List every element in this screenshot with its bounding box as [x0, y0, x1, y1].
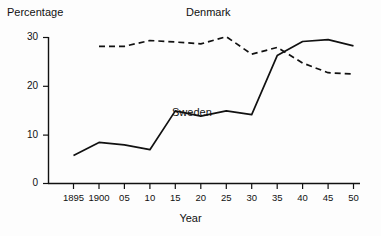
- y-tick-label-20: 20: [12, 80, 38, 91]
- series-label-sweden: Sweden: [172, 106, 212, 118]
- y-axis-title: Percentage: [7, 6, 63, 18]
- x-tick-marks: [74, 184, 354, 190]
- y-tick-marks: [43, 38, 49, 184]
- x-tick-label-30: 30: [240, 192, 264, 203]
- y-tick-label-0: 0: [12, 177, 38, 188]
- line-chart: Percentage 30 20 10 0 1895 1900 05 10 15…: [0, 0, 381, 236]
- x-tick-label-05: 05: [112, 192, 136, 203]
- x-tick-label-40: 40: [291, 192, 315, 203]
- x-tick-label-1900: 1900: [85, 192, 113, 203]
- x-tick-label-45: 45: [316, 192, 340, 203]
- x-tick-label-25: 25: [214, 192, 238, 203]
- x-tick-label-15: 15: [163, 192, 187, 203]
- x-tick-label-20: 20: [189, 192, 213, 203]
- series-line-sweden: [74, 40, 354, 156]
- x-axis-title: Year: [0, 212, 381, 224]
- x-tick-label-35: 35: [265, 192, 289, 203]
- series-label-denmark: Denmark: [186, 6, 231, 18]
- y-tick-label-30: 30: [12, 31, 38, 42]
- x-tick-label-10: 10: [138, 192, 162, 203]
- y-tick-label-10: 10: [12, 129, 38, 140]
- x-tick-label-1895: 1895: [60, 192, 88, 203]
- series-line-denmark: [99, 37, 354, 74]
- x-tick-label-50: 50: [342, 192, 366, 203]
